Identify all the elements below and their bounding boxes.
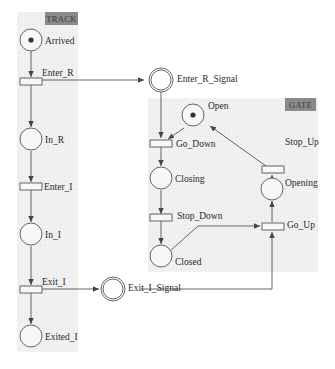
label-open: Open [208,101,229,111]
label-exit-i-signal: Exit_I_Signal [128,283,181,293]
transition-enter-r[interactable] [20,78,42,85]
label-exited-i: Exited_I [45,332,78,342]
petri-net-diagram: TRACK GATE [0,0,335,369]
track-tag: TRACK [46,14,77,24]
place-enter-r-signal[interactable] [149,68,173,92]
label-arrived: Arrived [45,36,75,46]
label-stop-up: Stop_Up [285,137,319,147]
place-arrived[interactable] [20,29,42,51]
label-enter-r-signal: Enter_R_Signal [177,74,238,84]
token-icon [190,112,195,117]
place-exit-i-signal[interactable] [101,277,125,301]
transition-go-down[interactable] [150,140,172,147]
label-exit-i: Exit_I [42,277,66,287]
label-enter-i: Enter_I [44,182,73,192]
label-in-r: In_R [45,135,65,145]
place-opening[interactable] [261,178,283,200]
place-closed[interactable] [150,245,172,267]
label-in-i: In_I [45,230,61,240]
place-exited-i[interactable] [20,325,42,347]
label-go-up: Go_Up [287,220,315,230]
label-enter-r: Enter_R [42,68,74,78]
place-in-i[interactable] [20,223,42,245]
transition-enter-i[interactable] [20,183,42,190]
label-opening: Opening [285,178,318,188]
label-closed: Closed [175,257,202,267]
place-open[interactable] [182,104,204,126]
transition-stop-up[interactable] [262,166,284,173]
place-in-r[interactable] [20,128,42,150]
place-closing[interactable] [150,167,172,189]
transition-exit-i[interactable] [20,286,42,293]
gate-tag: GATE [289,100,312,110]
label-go-down: Go_Down [176,139,216,149]
token-icon [28,37,33,42]
transition-stop-down[interactable] [150,214,172,221]
transition-go-up[interactable] [262,223,284,230]
label-closing: Closing [175,174,205,184]
label-stop-down: Stop_Down [177,211,223,221]
